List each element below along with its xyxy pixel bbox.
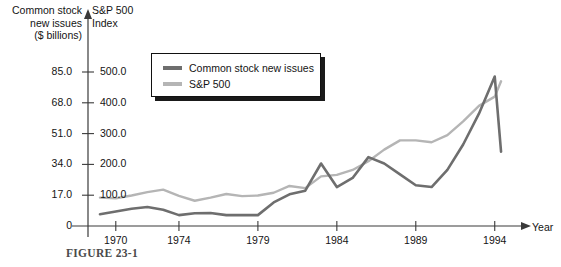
y-tick-label-left: 34.0 [20, 157, 72, 169]
y-tick-label-right: 300.0 [100, 127, 126, 139]
line-swatch-icon [163, 82, 182, 85]
axis-title-line: Index [92, 17, 118, 29]
left-axis-title: Common stocknew issues($ billions) [4, 4, 82, 42]
figure-caption: FIGURE 23-1 [66, 247, 138, 259]
y-tick-label-left: 85.0 [20, 65, 72, 77]
x-tick-label: 1984 [315, 234, 359, 246]
figure-chart [0, 0, 561, 267]
y-tick-label-left: 51.0 [20, 127, 72, 139]
y-tick-label-zero: 0 [20, 219, 72, 231]
legend-label: S&P 500 [189, 78, 230, 90]
y-axis-arrow-icon [84, 9, 92, 19]
axis-title-line: ($ billions) [34, 29, 82, 41]
axis-title-line: Common stock [12, 4, 82, 16]
y-tick-label-right: 500.0 [100, 65, 126, 77]
y-tick-label-left: 68.0 [20, 96, 72, 108]
x-tick-label: 1994 [473, 234, 517, 246]
x-tick-label: 1989 [394, 234, 438, 246]
y-tick-label-left: 17.0 [20, 188, 72, 200]
right-axis-title: S&P 500Index [92, 4, 182, 29]
legend-box: Common stock new issues S&P 500 [151, 53, 321, 97]
x-tick-label: 1970 [94, 234, 138, 246]
x-tick-label: 1974 [157, 234, 201, 246]
y-tick-label-right: 100.0 [100, 188, 126, 200]
line-swatch-icon [163, 66, 182, 69]
x-axis-arrow-icon [521, 222, 531, 230]
x-axis-title: Year [532, 221, 553, 233]
y-tick-label-right: 200.0 [100, 157, 126, 169]
axis-title-line: S&P 500 [92, 4, 133, 16]
legend-item-sp500: S&P 500 [163, 77, 230, 91]
y-tick-label-right: 400.0 [100, 96, 126, 108]
axis-title-line: new issues [30, 17, 82, 29]
legend-item-common-stock: Common stock new issues [163, 61, 314, 75]
legend-label: Common stock new issues [189, 62, 314, 74]
x-tick-label: 1979 [236, 234, 280, 246]
